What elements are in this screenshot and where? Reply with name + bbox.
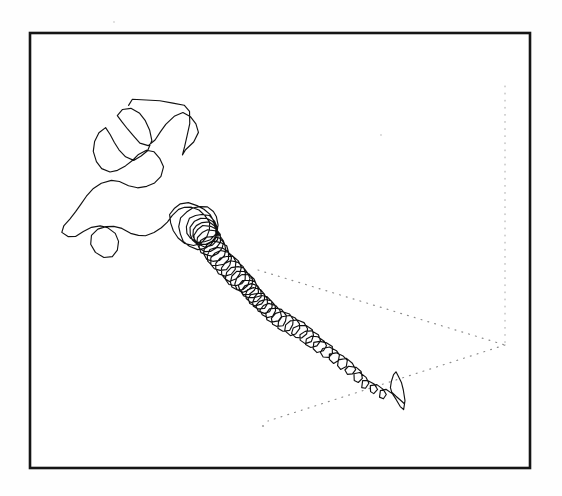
stray-dot-top-left [113, 21, 115, 23]
figure-root: Random walk trajectory [0, 0, 562, 496]
random-walk-plot [0, 0, 562, 496]
stray-dot-upper-right [380, 134, 382, 136]
stray-dot-lower-left [262, 425, 264, 427]
plot-frame [30, 33, 530, 468]
